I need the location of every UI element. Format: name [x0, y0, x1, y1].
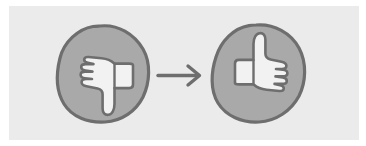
sketch-illustration: [0, 0, 366, 146]
thumbs-up-group: [212, 25, 305, 122]
thumbs-down-group: [57, 26, 148, 122]
right-arrow-group: [158, 66, 200, 85]
figure-scene: [0, 0, 366, 146]
